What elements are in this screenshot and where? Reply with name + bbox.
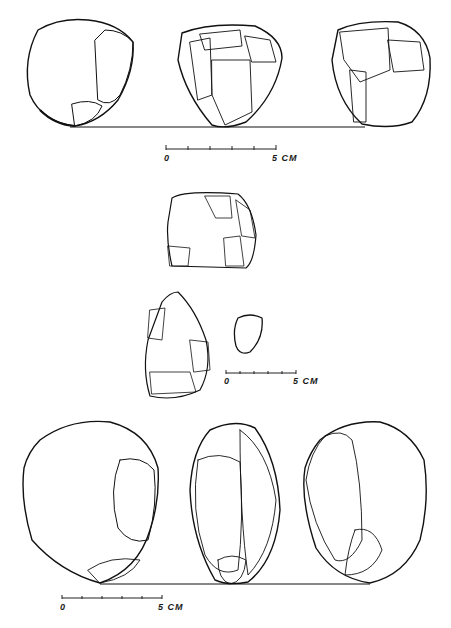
middle-group-artifacts xyxy=(145,193,262,398)
scale-bar-bottom xyxy=(62,595,162,599)
bottom-row-artifacts xyxy=(23,421,426,584)
core-top-left-drawing xyxy=(27,19,133,126)
scale-bar-middle xyxy=(226,370,296,374)
scale-middle-end-label: 5 CM xyxy=(293,376,319,386)
flake-middle-left-drawing xyxy=(145,292,210,398)
scale-top-start-label: 0 xyxy=(164,153,170,163)
plate-drawing xyxy=(0,0,451,628)
cobble-bottom-right-drawing xyxy=(304,422,426,583)
core-top-center-drawing xyxy=(178,25,282,127)
cobble-bottom-left-drawing xyxy=(23,421,158,583)
scale-top-end-label: 5 CM xyxy=(272,153,298,163)
top-row-artifacts xyxy=(27,19,430,127)
cobble-bottom-center-drawing xyxy=(190,423,280,584)
scale-bottom-end-label: 5 CM xyxy=(158,602,184,612)
core-top-right-drawing xyxy=(332,22,430,127)
scale-bottom-start-label: 0 xyxy=(60,602,66,612)
flake-middle-top-drawing xyxy=(168,193,257,268)
flake-middle-small-drawing xyxy=(234,315,262,353)
scale-middle-start-label: 0 xyxy=(224,376,230,386)
artifact-plate: 0 5 CM 0 5 CM 0 5 CM xyxy=(0,0,451,628)
scale-bar-top xyxy=(166,145,276,150)
